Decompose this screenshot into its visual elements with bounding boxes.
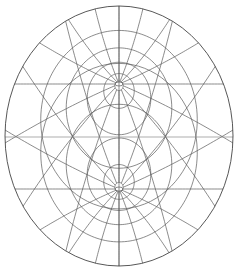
meridian-line	[68, 19, 117, 81]
meridian-line	[69, 191, 117, 253]
meridian-lines	[5, 6, 233, 266]
graticule-svg	[0, 0, 239, 276]
meridian-line	[121, 19, 170, 81]
meridian-line	[122, 190, 198, 230]
meridian-line	[121, 191, 169, 253]
graticule-diagram	[0, 0, 239, 276]
meridian-line	[40, 190, 116, 230]
